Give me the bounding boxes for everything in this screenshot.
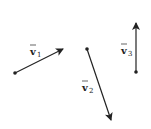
svg-text:2: 2 bbox=[89, 87, 93, 95]
v3-label: v 3 bbox=[120, 44, 132, 58]
vector-diagram: v 1 v 2 v 3 bbox=[0, 0, 151, 129]
svg-text:1: 1 bbox=[37, 51, 41, 59]
svg-text:v: v bbox=[29, 46, 37, 57]
v2-label: v 2 bbox=[81, 81, 93, 95]
svg-text:v: v bbox=[81, 82, 89, 93]
vector-v3: v 3 bbox=[120, 23, 138, 74]
svg-text:3: 3 bbox=[128, 50, 132, 58]
vector-v1: v 1 bbox=[13, 45, 63, 75]
vector-v2: v 2 bbox=[81, 47, 111, 120]
v2-tail-point bbox=[85, 47, 89, 51]
v3-tail-point bbox=[134, 70, 138, 74]
v1-label: v 1 bbox=[29, 45, 41, 59]
svg-text:v: v bbox=[120, 45, 128, 56]
v1-tail-point bbox=[13, 71, 17, 75]
